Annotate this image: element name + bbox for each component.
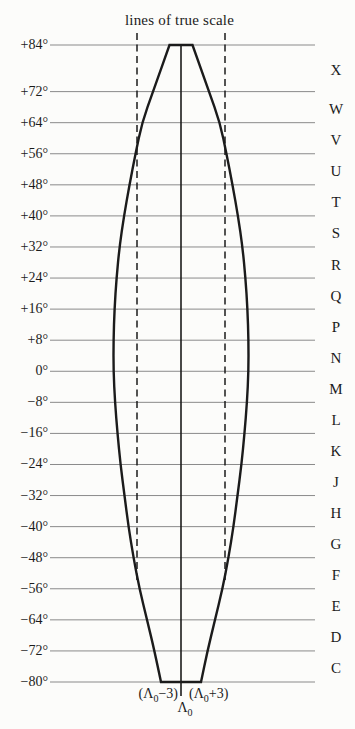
band-letter: V bbox=[320, 131, 352, 149]
band-letter: L bbox=[320, 411, 352, 429]
label-text: (Λ bbox=[139, 686, 154, 701]
latitude-label: −72° bbox=[0, 642, 48, 660]
band-letter: S bbox=[320, 224, 352, 242]
latitude-label: +32° bbox=[0, 238, 48, 256]
latitude-label: −8° bbox=[0, 393, 48, 411]
band-letter: P bbox=[320, 318, 352, 336]
label-text: −3) bbox=[158, 686, 178, 701]
band-letter: Q bbox=[320, 287, 352, 305]
central-meridian-label: Λ0 bbox=[163, 700, 207, 716]
latitude-label: −80° bbox=[0, 673, 48, 691]
band-letter: T bbox=[320, 193, 352, 211]
band-letter: H bbox=[320, 504, 352, 522]
label-subscript: 0 bbox=[188, 707, 193, 718]
latitude-label: +8° bbox=[0, 331, 48, 349]
latitude-label: +84° bbox=[0, 36, 48, 54]
latitude-label: −56° bbox=[0, 580, 48, 598]
latitude-label: +16° bbox=[0, 300, 48, 318]
diagram-canvas bbox=[0, 0, 355, 729]
band-letter: J bbox=[320, 473, 352, 491]
latitude-label: −48° bbox=[0, 549, 48, 567]
latitude-label: +64° bbox=[0, 114, 48, 132]
band-letter: N bbox=[320, 349, 352, 367]
band-letter: E bbox=[320, 597, 352, 615]
band-letter: R bbox=[320, 256, 352, 274]
latitude-label: +56° bbox=[0, 145, 48, 163]
label-text: (Λ bbox=[189, 686, 204, 701]
band-letter: W bbox=[320, 100, 352, 118]
band-letter: D bbox=[320, 628, 352, 646]
band-letter: C bbox=[320, 659, 352, 677]
band-letter: U bbox=[320, 162, 352, 180]
latitude-label: 0° bbox=[0, 362, 48, 380]
label-text: Λ bbox=[177, 700, 187, 715]
latitude-label: −64° bbox=[0, 611, 48, 629]
latitude-label: −24° bbox=[0, 455, 48, 473]
latitude-label: +48° bbox=[0, 176, 48, 194]
band-letter: K bbox=[320, 442, 352, 460]
label-text: +3) bbox=[209, 686, 229, 701]
band-letter: M bbox=[320, 380, 352, 398]
latitude-label: +40° bbox=[0, 207, 48, 225]
band-letter: X bbox=[320, 61, 352, 79]
latitude-label: +72° bbox=[0, 83, 48, 101]
diagram-page: lines of true scale +84°+72°+64°+56°+48°… bbox=[0, 0, 355, 729]
latitude-label: −40° bbox=[0, 518, 48, 536]
latitude-label: −16° bbox=[0, 424, 48, 442]
band-letter: F bbox=[320, 566, 352, 584]
latitude-label: +24° bbox=[0, 269, 48, 287]
latitude-label: −32° bbox=[0, 487, 48, 505]
band-letter: G bbox=[320, 535, 352, 553]
